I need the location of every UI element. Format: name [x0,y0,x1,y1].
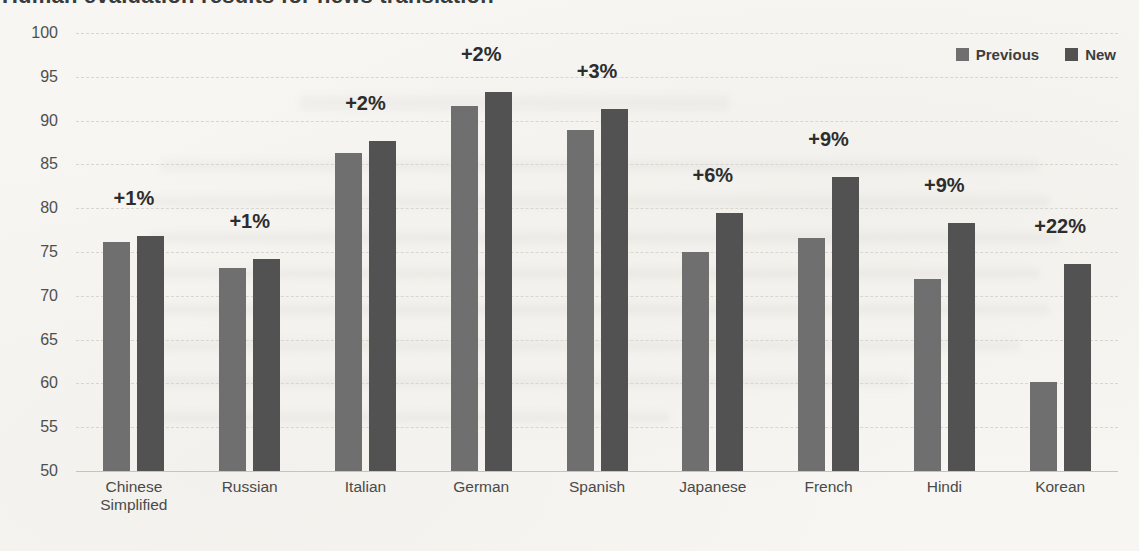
bar-previous-chinese-simplified [103,242,130,471]
bar-pair [655,33,771,471]
bar-previous-japanese [682,252,709,471]
bar-new-korean [1064,264,1091,471]
legend-item-previous: Previous [956,46,1039,63]
bar-group-spanish: +3% [539,33,655,471]
chart-title-clipped: Human evaluation results for news transl… [2,0,494,9]
delta-label-spanish: +3% [577,60,618,83]
y-tick-label-55: 55 [0,417,58,437]
bar-new-spanish [601,109,628,471]
bar-group-german: +2% [423,33,539,471]
delta-label-german: +2% [461,43,502,66]
y-tick-label-80: 80 [0,198,58,218]
x-tick-label-german: German [423,478,539,514]
bar-previous-hindi [914,279,941,471]
bar-pair [76,33,192,471]
delta-label-french: +9% [808,128,849,151]
bar-group-chinese-simplified: +1% [76,33,192,471]
bar-previous-german [451,106,478,471]
bar-group-hindi: +9% [886,33,1002,471]
delta-label-korean: +22% [1034,215,1086,238]
bar-pair [886,33,1002,471]
bar-new-french [832,177,859,471]
legend-item-new: New [1065,46,1116,63]
y-axis-tick-labels: 50556065707580859095100 [0,33,58,471]
x-tick-label-spanish: Spanish [539,478,655,514]
bar-group-russian: +1% [192,33,308,471]
scanned-page: Human evaluation results for news transl… [0,0,1139,551]
bar-pair [1002,33,1118,471]
bar-previous-korean [1030,382,1057,471]
bar-new-russian [253,259,280,471]
y-tick-label-65: 65 [0,330,58,350]
bar-group-korean: +22% [1002,33,1118,471]
delta-label-italian: +2% [345,92,386,115]
legend-swatch-icon [1065,48,1078,61]
bar-previous-spanish [567,130,594,471]
x-tick-label-japanese: Japanese [655,478,771,514]
bar-new-hindi [948,223,975,471]
bar-pair [771,33,887,471]
y-tick-label-85: 85 [0,154,58,174]
bar-new-chinese-simplified [137,236,164,471]
plot-area: +1%+1%+2%+2%+3%+6%+9%+9%+22% PreviousNew [76,33,1118,471]
y-tick-label-90: 90 [0,111,58,131]
bar-pair [423,33,539,471]
y-tick-label-95: 95 [0,67,58,87]
legend-label: New [1085,46,1116,63]
bar-pair [539,33,655,471]
x-tick-label-korean: Korean [1002,478,1118,514]
delta-label-japanese: +6% [693,164,734,187]
y-tick-label-50: 50 [0,461,58,481]
delta-label-chinese-simplified: +1% [114,187,155,210]
bar-group-french: +9% [771,33,887,471]
bar-new-japanese [716,213,743,471]
x-tick-label-hindi: Hindi [886,478,1002,514]
bar-group-italian: +2% [308,33,424,471]
legend-label: Previous [976,46,1039,63]
bar-previous-italian [335,153,362,471]
delta-label-hindi: +9% [924,174,965,197]
bar-groups: +1%+1%+2%+2%+3%+6%+9%+9%+22% [76,33,1118,471]
bar-previous-russian [219,268,246,471]
y-tick-label-75: 75 [0,242,58,262]
y-tick-label-70: 70 [0,286,58,306]
bar-group-japanese: +6% [655,33,771,471]
gridline-50 [76,471,1118,472]
bar-previous-french [798,238,825,471]
x-tick-label-russian: Russian [192,478,308,514]
bar-new-german [485,92,512,471]
delta-label-russian: +1% [229,210,270,233]
x-tick-label-chinese-simplified: Chinese Simplified [76,478,192,514]
y-tick-label-60: 60 [0,373,58,393]
x-tick-label-italian: Italian [308,478,424,514]
legend: PreviousNew [956,46,1116,63]
bar-new-italian [369,141,396,471]
x-axis-category-labels: Chinese SimplifiedRussianItalianGermanSp… [76,478,1118,514]
y-tick-label-100: 100 [0,23,58,43]
legend-swatch-icon [956,48,969,61]
bar-pair [192,33,308,471]
x-tick-label-french: French [771,478,887,514]
